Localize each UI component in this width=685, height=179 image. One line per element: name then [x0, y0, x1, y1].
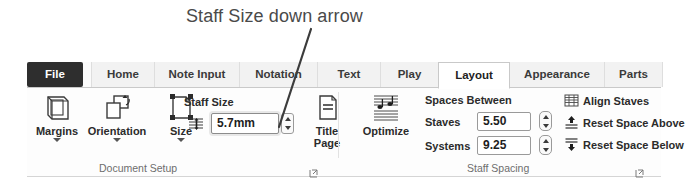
tab-text[interactable]: Text [317, 62, 381, 87]
tab-parts[interactable]: Parts [604, 62, 663, 87]
orientation-label: Orientation [85, 125, 149, 137]
staves-field[interactable]: 5.50 [477, 112, 531, 131]
tab-appearance-label: Appearance [524, 68, 590, 80]
staff-size-field[interactable]: 5.7mm [211, 113, 279, 134]
title-page-button[interactable]: Title Page [295, 91, 359, 149]
align-staves-label: Align Staves [583, 95, 649, 107]
staves-stepper[interactable] [539, 111, 552, 131]
tab-play[interactable]: Play [380, 62, 439, 87]
margins-icon [25, 91, 89, 125]
systems-down-arrow-icon[interactable] [543, 148, 549, 152]
ribbon-body: Margins Orientation [27, 88, 661, 177]
tab-home[interactable]: Home [91, 62, 155, 87]
document-setup-dialog-launcher-icon[interactable] [309, 164, 318, 173]
tab-layout-label: Layout [455, 69, 493, 81]
staves-down-arrow-icon[interactable] [543, 124, 549, 128]
tab-parts-label: Parts [619, 68, 648, 80]
spaces-between-label: Spaces Between [425, 94, 512, 106]
reset-space-below-command[interactable]: Reset Space Below [564, 137, 684, 152]
ribbon: File Home Note Input Notation Text Play … [27, 62, 661, 176]
systems-stepper[interactable] [539, 135, 552, 155]
margins-label: Margins [25, 125, 89, 137]
reset-space-above-label: Reset Space Above [583, 117, 685, 129]
reset-space-above-icon [564, 115, 579, 130]
reset-space-below-icon [564, 137, 579, 152]
margins-dropdown-arrow[interactable] [53, 138, 61, 142]
systems-value[interactable]: 9.25 [478, 137, 530, 154]
staves-label: Staves [425, 116, 460, 128]
staff-spacing-group-label: Staff Spacing [467, 162, 529, 174]
ribbon-tab-strip: File Home Note Input Notation Text Play … [27, 62, 661, 88]
staves-up-arrow-icon[interactable] [543, 115, 549, 119]
align-staves-icon [564, 93, 579, 108]
optimize-label: Optimize [354, 125, 418, 137]
tab-home-label: Home [107, 68, 139, 80]
orientation-button[interactable]: Orientation [85, 91, 149, 142]
align-staves-command[interactable]: Align Staves [564, 93, 649, 108]
systems-up-arrow-icon[interactable] [543, 139, 549, 143]
tab-play-label: Play [398, 68, 422, 80]
staff-spacing-dialog-launcher-icon[interactable] [635, 164, 644, 173]
tab-layout[interactable]: Layout [438, 62, 510, 89]
title-page-label-line2: Page [295, 137, 359, 149]
orientation-dropdown-arrow[interactable] [113, 138, 121, 142]
tab-notation[interactable]: Notation [239, 62, 318, 87]
optimize-button[interactable]: Optimize [354, 91, 418, 137]
staff-size-value[interactable]: 5.7mm [212, 114, 278, 133]
staves-value[interactable]: 5.50 [478, 113, 530, 130]
optimize-icon [354, 91, 418, 125]
margins-button[interactable]: Margins [25, 91, 89, 142]
systems-label: Systems [425, 140, 470, 152]
orientation-icon [85, 91, 149, 125]
tab-notation-label: Notation [255, 68, 302, 80]
staff-size-up-arrow-icon[interactable] [285, 117, 291, 121]
staff-size-down-arrow-icon[interactable] [285, 126, 291, 130]
tab-note-input-label: Note Input [169, 68, 226, 80]
tab-appearance[interactable]: Appearance [509, 62, 605, 87]
tab-file[interactable]: File [27, 62, 83, 87]
staff-size-stepper[interactable] [281, 113, 294, 134]
staff-size-icon [188, 116, 205, 137]
systems-field[interactable]: 9.25 [477, 136, 531, 155]
title-page-icon [295, 91, 359, 125]
document-setup-group-label: Document Setup [99, 162, 177, 174]
title-page-label-line1: Title [295, 125, 359, 137]
group-separator [338, 92, 339, 158]
tab-note-input[interactable]: Note Input [154, 62, 240, 87]
page-size-dropdown-arrow[interactable] [177, 138, 185, 142]
staff-size-label: Staff Size [184, 96, 234, 108]
tab-text-label: Text [338, 68, 361, 80]
annotation-label: Staff Size down arrow [186, 6, 363, 27]
reset-space-below-label: Reset Space Below [583, 139, 684, 151]
tab-file-label: File [45, 68, 65, 80]
reset-space-above-command[interactable]: Reset Space Above [564, 115, 685, 130]
